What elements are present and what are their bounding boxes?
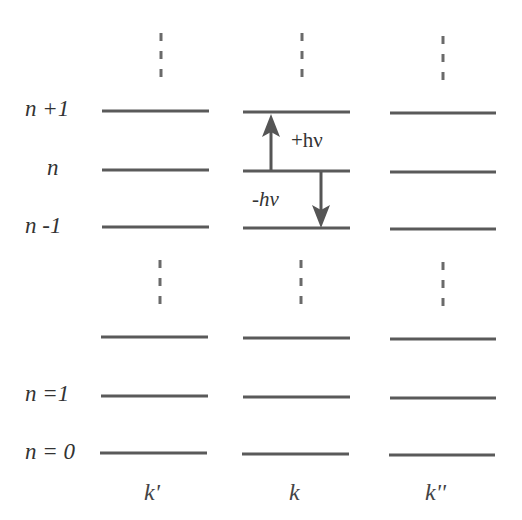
label-absorption: +hν (291, 128, 323, 153)
label-n-plus-1: n +1 (25, 96, 69, 122)
ellipsis-middle (160, 260, 443, 306)
energy-level-diagram (0, 0, 522, 520)
label-n-eq-1: n =1 (25, 381, 69, 407)
emission-arrow (312, 172, 330, 228)
label-n-eq-0: n = 0 (25, 439, 75, 465)
level-n-eq-2 (101, 337, 496, 339)
absorption-arrow (262, 114, 280, 170)
label-emission: -hν (252, 187, 279, 212)
ellipsis-top (161, 33, 443, 80)
column-label-k: k (289, 479, 300, 506)
column-label-k-double-prime: k'' (425, 479, 446, 506)
level-n-eq-1 (101, 396, 496, 398)
level-n-minus-1 (102, 227, 496, 229)
level-n-eq-0 (100, 453, 495, 455)
level-n (102, 170, 496, 172)
column-label-k-prime: k' (144, 479, 160, 506)
label-n: n (47, 155, 59, 181)
level-n-plus-1 (102, 111, 496, 113)
label-n-minus-1: n -1 (25, 213, 61, 239)
